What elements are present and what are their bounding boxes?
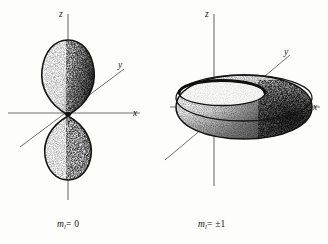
axis-label-y-right: y [283,47,289,57]
caption-ml-zero: ml= 0 [57,219,79,230]
axis-label-x-right: x [312,102,318,112]
axis-label-y-left: y [117,60,123,70]
axis-label-z-left: z [58,9,63,19]
lobe-upper-left [38,36,100,120]
axis-label-z-right: z [204,9,209,19]
origin-node-left [65,112,72,116]
caption-relation: = ±1 [207,219,226,229]
caption-ml-plusminus-one: ml= ±1 [198,219,226,230]
orbital-probability-figure: z x y z x y [0,0,328,244]
axis-label-x-left: x [132,108,138,118]
panel-ml-plusminus-one: z x y [165,9,320,186]
caption-relation: = 0 [66,219,79,229]
lobe-lower-left [41,112,103,186]
caption-symbol: m [57,219,64,229]
caption-symbol: m [198,219,205,229]
panel-ml-zero: z x y [8,9,140,200]
